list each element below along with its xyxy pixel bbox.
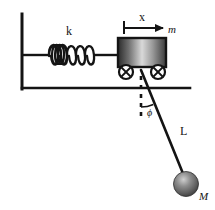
cart-mass-label: m xyxy=(168,24,176,35)
angle-label: ϕ xyxy=(147,108,152,118)
rod-length-label: L xyxy=(180,125,187,137)
diagram-canvas xyxy=(0,0,215,210)
physics-diagram: k x m ϕ L M xyxy=(0,0,215,210)
pendulum-bob xyxy=(174,172,199,197)
cart-body xyxy=(118,38,166,67)
pendulum-rod xyxy=(141,70,184,176)
displacement-label: x xyxy=(139,11,145,23)
spring-constant-label: k xyxy=(66,25,72,37)
bob-mass-label: M xyxy=(199,191,208,202)
